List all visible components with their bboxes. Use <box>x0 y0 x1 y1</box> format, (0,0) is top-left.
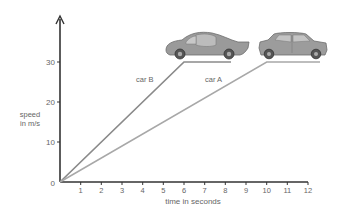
x-axis: 1 2 3 4 5 6 7 8 9 10 11 12 time in secon… <box>60 182 312 206</box>
x-tick-11: 11 <box>283 186 291 195</box>
label-car-a: car A <box>205 75 222 84</box>
y-tick-0: 0 <box>51 179 56 188</box>
label-car-b: car B <box>136 75 154 84</box>
y-tick-30: 30 <box>46 58 55 67</box>
x-tick-4: 4 <box>141 186 145 195</box>
x-tick-12: 12 <box>304 186 312 195</box>
x-tick-10: 10 <box>263 186 271 195</box>
x-tick-2: 2 <box>99 186 103 195</box>
y-tick-20: 20 <box>46 98 55 107</box>
x-tick-5: 5 <box>161 186 165 195</box>
y-axis-label-line1: speed <box>20 110 40 119</box>
x-axis-label: time in seconds <box>165 197 221 206</box>
speed-time-chart: 30 20 10 0 speed in m/s 1 2 3 4 5 <box>0 0 341 214</box>
series-car-a <box>60 62 320 182</box>
x-tick-7: 7 <box>203 186 207 195</box>
x-tick-1: 1 <box>79 186 83 195</box>
x-tick-8: 8 <box>223 186 227 195</box>
x-tick-3: 3 <box>120 186 124 195</box>
y-tick-10: 10 <box>46 138 55 147</box>
sports-car-icon <box>166 32 249 59</box>
x-tick-6: 6 <box>182 186 186 195</box>
hatchback-car-icon <box>259 33 327 59</box>
y-axis: 30 20 10 0 speed in m/s <box>20 16 64 188</box>
y-axis-label-line2: in m/s <box>20 119 40 128</box>
x-tick-9: 9 <box>244 186 248 195</box>
